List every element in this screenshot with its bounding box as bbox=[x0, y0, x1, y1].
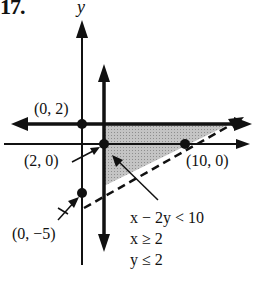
point-2-0 bbox=[99, 139, 109, 149]
point-0-2 bbox=[77, 119, 87, 129]
point-label-0-neg5: (0, −5) bbox=[12, 225, 56, 243]
leader-0-neg5 bbox=[58, 197, 79, 220]
arrow-left-icon bbox=[11, 117, 28, 131]
arrow-up-icon bbox=[98, 64, 110, 82]
arrow-down-icon bbox=[98, 234, 110, 252]
y-axis bbox=[76, 20, 88, 265]
inequality-1: x − 2y < 10 bbox=[130, 208, 204, 228]
point-label-10-0: (10, 0) bbox=[186, 152, 229, 170]
y-axis-arrow-icon bbox=[76, 20, 88, 38]
inequality-2: x ≥ 2 bbox=[130, 229, 163, 249]
leader-2-0 bbox=[72, 147, 100, 162]
point-0-neg5 bbox=[77, 188, 87, 198]
inequality-3: y ≤ 2 bbox=[130, 250, 163, 270]
point-10-0 bbox=[180, 139, 190, 149]
point-label-0-2: (0, 2) bbox=[34, 100, 69, 118]
x-axis-arrow-icon bbox=[236, 139, 250, 149]
point-label-2-0: (2, 0) bbox=[24, 152, 59, 170]
